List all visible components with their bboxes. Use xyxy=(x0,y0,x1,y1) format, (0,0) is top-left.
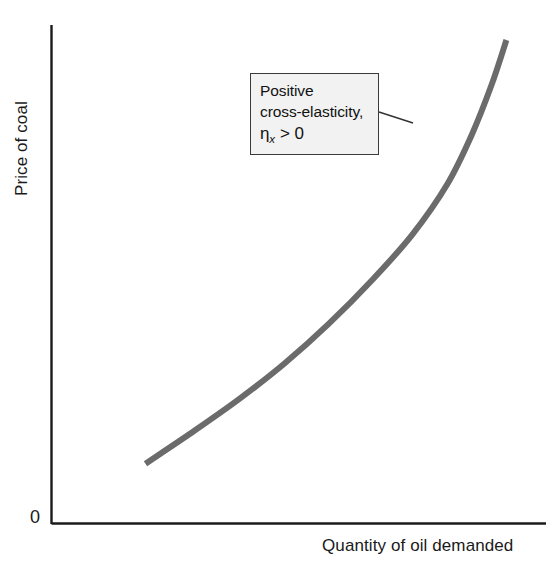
x-axis-label-text: Quantity of oil demanded xyxy=(322,536,513,555)
eta-symbol: η xyxy=(260,124,269,143)
annotation-line-2: cross-elasticity, xyxy=(260,102,378,123)
y-axis-label-text: Price of coal xyxy=(12,101,32,196)
annotation-equation: ηx> 0 xyxy=(260,123,378,148)
annotation-leader-line xyxy=(379,112,413,123)
eta-subscript: x xyxy=(269,134,275,146)
y-axis-label: Price of coal xyxy=(0,16,44,196)
origin-label: 0 xyxy=(30,508,40,526)
x-axis-label: Quantity of oil demanded xyxy=(322,536,513,556)
chart-figure: Price of coal Quantity of oil demanded 0… xyxy=(0,0,556,583)
annotation-line-1: Positive xyxy=(260,81,378,102)
relation-symbol: > 0 xyxy=(280,124,304,143)
origin-label-text: 0 xyxy=(30,507,40,527)
cross-elasticity-annotation-box: Positive cross-elasticity, ηx> 0 xyxy=(250,73,379,155)
